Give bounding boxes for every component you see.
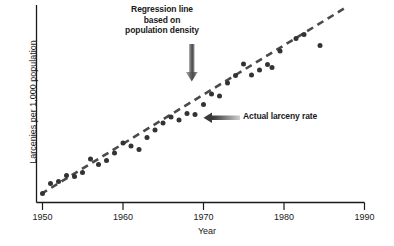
- data-point: [161, 121, 166, 126]
- data-point: [137, 147, 142, 152]
- down-arrow-icon: [186, 44, 198, 82]
- data-point: [96, 162, 101, 167]
- data-point: [64, 173, 69, 178]
- data-point: [270, 65, 275, 70]
- regression-annotation-line3: population density: [98, 25, 226, 36]
- data-point: [80, 170, 85, 175]
- data-point: [129, 144, 134, 149]
- data-point: [217, 94, 222, 99]
- left-arrow-icon: [204, 113, 241, 123]
- data-point: [225, 81, 230, 86]
- data-point: [294, 36, 299, 41]
- data-point: [48, 181, 53, 186]
- data-point: [88, 157, 93, 162]
- data-point: [201, 102, 206, 107]
- x-tick-label-1990: 1990: [345, 212, 385, 222]
- data-point: [185, 111, 190, 116]
- x-axis-ticks: [43, 203, 365, 211]
- y-axis-title: Larcenies per 1,000 population: [28, 7, 38, 197]
- data-point: [249, 73, 254, 78]
- data-point: [121, 141, 126, 146]
- data-point: [241, 62, 246, 67]
- actual-larceny-annotation: Actual larceny rate: [243, 111, 317, 122]
- regression-line: [41, 8, 345, 194]
- x-tick-label-1950: 1950: [23, 212, 63, 222]
- data-point: [153, 128, 158, 133]
- data-point: [278, 49, 283, 54]
- data-point: [72, 174, 77, 179]
- scatter-plot-canvas: [0, 0, 394, 246]
- data-point: [265, 62, 270, 67]
- data-point: [209, 92, 214, 97]
- x-tick-label-1960: 1960: [103, 212, 143, 222]
- regression-annotation: Regression line based on population dens…: [98, 4, 226, 36]
- data-point: [257, 68, 262, 73]
- data-point: [56, 179, 61, 184]
- data-point: [112, 151, 117, 156]
- data-point: [302, 32, 307, 37]
- data-point: [233, 73, 238, 78]
- x-tick-label-1980: 1980: [264, 212, 304, 222]
- regression-annotation-line1: Regression line: [98, 4, 226, 15]
- data-point: [40, 191, 45, 196]
- x-tick-label-1970: 1970: [184, 212, 224, 222]
- x-axis-title: Year: [177, 226, 237, 236]
- chart-figure: Regression line based on population dens…: [0, 0, 394, 246]
- data-point: [145, 135, 150, 140]
- data-point: [193, 112, 198, 117]
- data-point: [169, 115, 174, 120]
- regression-annotation-line2: based on: [98, 15, 226, 26]
- data-point: [177, 118, 182, 123]
- data-point: [318, 43, 323, 48]
- data-point: [104, 158, 109, 163]
